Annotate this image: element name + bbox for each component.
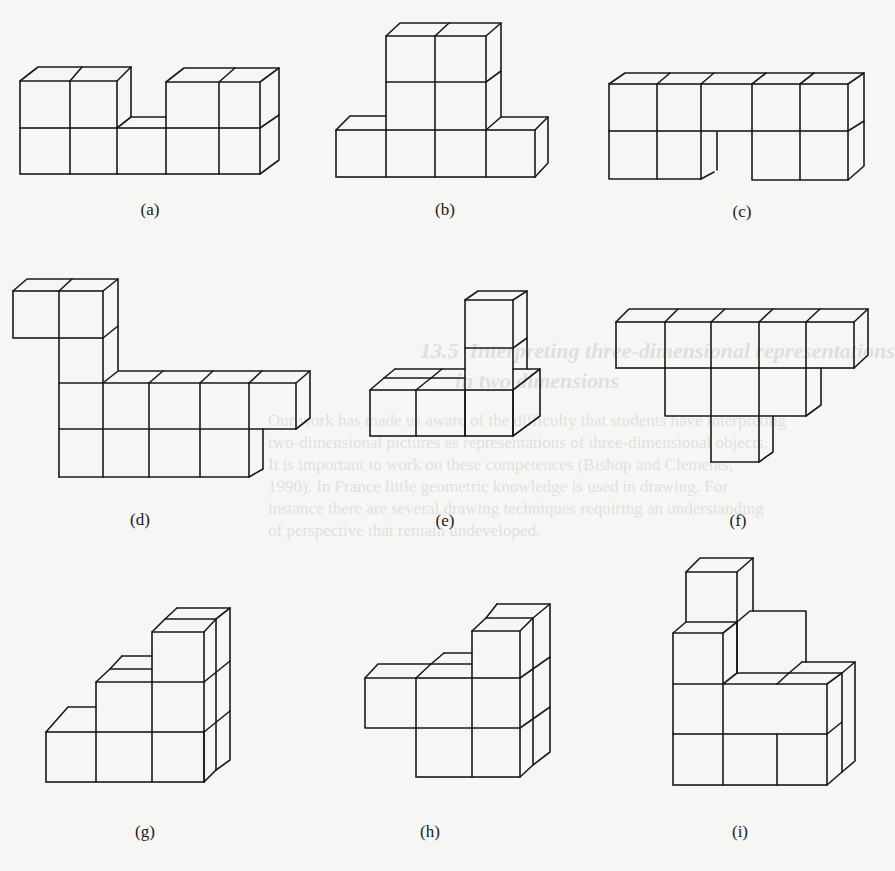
caption-h: (h) [420,822,440,842]
figure-b-cube-construction [336,23,548,177]
caption-g: (g) [135,822,155,842]
caption-a: (a) [141,200,160,220]
figure-c-cube-construction [609,73,864,180]
figure-h-cube-construction [365,604,550,777]
figure-f-cube-construction [616,309,868,462]
caption-b: (b) [435,200,455,220]
caption-f: (f) [730,511,747,531]
figure-i-cube-construction [673,558,855,785]
caption-d: (d) [130,510,150,530]
caption-c: (c) [733,202,752,222]
figure-e-cube-construction [370,291,540,436]
caption-i: (i) [732,822,748,842]
figure-g-cube-construction [46,608,230,782]
figure-d-cube-construction [13,279,310,477]
figure-a-cube-construction [20,67,279,174]
caption-e: (e) [436,511,455,531]
